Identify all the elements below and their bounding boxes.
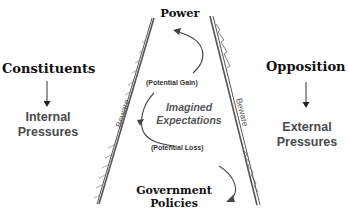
potential-gain-label: (Potential Gain) (146, 79, 198, 86)
imagined-expectations: Imagined Expectations (144, 101, 234, 127)
left-wall-label: Beware (113, 98, 132, 129)
external-pressures: External Pressures (270, 120, 344, 150)
internal-pressures: Internal Pressures (12, 110, 84, 140)
potential-loss-label: (Potential Loss) (151, 144, 204, 151)
government-policies-line1: Government (134, 184, 214, 197)
power-label: Power (150, 6, 210, 20)
opposition-title: Opposition (266, 59, 346, 74)
external-pressures-line2: Pressures (270, 135, 344, 150)
gain-arrow (173, 28, 203, 73)
external-pressures-line1: External (270, 120, 344, 135)
internal-pressures-line2: Pressures (12, 125, 84, 140)
government-policies: Government Policies (134, 184, 214, 210)
loss-arrow (219, 166, 236, 202)
internal-pressures-line1: Internal (12, 110, 84, 125)
imagined-expectations-line1: Imagined (144, 101, 234, 114)
government-policies-line2: Policies (134, 197, 214, 210)
imagined-expectations-line2: Expectations (144, 114, 234, 127)
constituents-title: Constituents (2, 61, 95, 76)
right-down-arrow (303, 82, 310, 108)
left-down-arrow (44, 81, 51, 107)
